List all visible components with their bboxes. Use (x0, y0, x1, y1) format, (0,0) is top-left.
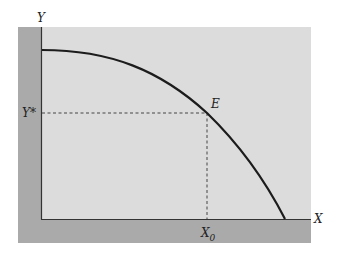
y-axis-label: Y (37, 11, 46, 25)
plot-area (41, 27, 311, 219)
x0-label-main: X (200, 226, 210, 240)
x0-label-sub: 0 (210, 233, 216, 243)
point-e-label: E (210, 97, 220, 111)
frontier-diagram: Y Y* E X X0 (0, 0, 337, 255)
y-star-label: Y* (22, 106, 36, 120)
x-axis-label: X (313, 212, 323, 226)
